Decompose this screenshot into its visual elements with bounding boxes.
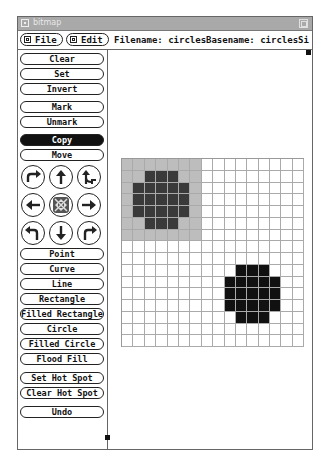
bitmap-pixel[interactable] bbox=[247, 218, 258, 230]
bitmap-pixel[interactable] bbox=[133, 335, 144, 347]
bitmap-pixel[interactable] bbox=[225, 300, 236, 312]
bitmap-pixel[interactable] bbox=[179, 312, 190, 324]
invert-button[interactable]: Invert bbox=[20, 83, 104, 95]
bitmap-pixel[interactable] bbox=[122, 312, 133, 324]
bitmap-pixel[interactable] bbox=[168, 183, 179, 195]
bitmap-pixel[interactable] bbox=[122, 265, 133, 277]
bitmap-pixel[interactable] bbox=[247, 300, 258, 312]
bitmap-pixel[interactable] bbox=[145, 312, 156, 324]
bitmap-pixel[interactable] bbox=[259, 159, 270, 171]
bitmap-pixel[interactable] bbox=[190, 288, 201, 300]
bitmap-pixel[interactable] bbox=[179, 206, 190, 218]
bitmap-pixel[interactable] bbox=[190, 277, 201, 289]
bitmap-pixel[interactable] bbox=[293, 206, 304, 218]
bitmap-pixel[interactable] bbox=[145, 288, 156, 300]
bitmap-pixel[interactable] bbox=[156, 265, 167, 277]
bitmap-pixel[interactable] bbox=[179, 265, 190, 277]
bitmap-pixel[interactable] bbox=[225, 253, 236, 265]
bitmap-pixel[interactable] bbox=[145, 335, 156, 347]
line-button[interactable]: Line bbox=[20, 278, 104, 290]
title-bar[interactable]: bitmap bbox=[18, 17, 312, 31]
left-arrow-button[interactable] bbox=[21, 193, 45, 217]
bitmap-pixel[interactable] bbox=[225, 218, 236, 230]
bitmap-pixel[interactable] bbox=[168, 159, 179, 171]
bitmap-pixel[interactable] bbox=[293, 265, 304, 277]
bitmap-pixel[interactable] bbox=[293, 253, 304, 265]
bitmap-pixel[interactable] bbox=[236, 277, 247, 289]
bitmap-pixel[interactable] bbox=[259, 335, 270, 347]
bitmap-pixel[interactable] bbox=[259, 171, 270, 183]
point-button[interactable]: Point bbox=[20, 248, 104, 260]
bitmap-pixel[interactable] bbox=[156, 171, 167, 183]
clear-hot-spot-button[interactable]: Clear Hot Spot bbox=[20, 387, 104, 399]
bitmap-pixel[interactable] bbox=[281, 171, 292, 183]
bitmap-pixel[interactable] bbox=[259, 312, 270, 324]
bitmap-pixel[interactable] bbox=[145, 241, 156, 253]
bitmap-pixel[interactable] bbox=[145, 253, 156, 265]
bitmap-pixel[interactable] bbox=[190, 230, 201, 242]
fold-button[interactable] bbox=[49, 193, 73, 217]
bitmap-pixel[interactable] bbox=[202, 218, 213, 230]
circle-button[interactable]: Circle bbox=[20, 323, 104, 335]
move-button[interactable]: Move bbox=[20, 149, 104, 161]
bitmap-pixel[interactable] bbox=[145, 300, 156, 312]
bitmap-pixel[interactable] bbox=[236, 300, 247, 312]
bitmap-pixel[interactable] bbox=[293, 300, 304, 312]
bitmap-pixel[interactable] bbox=[270, 206, 281, 218]
bitmap-pixel[interactable] bbox=[190, 253, 201, 265]
bitmap-pixel[interactable] bbox=[236, 218, 247, 230]
bitmap-pixel[interactable] bbox=[145, 194, 156, 206]
bitmap-pixel[interactable] bbox=[281, 312, 292, 324]
bitmap-pixel[interactable] bbox=[202, 335, 213, 347]
bitmap-pixel[interactable] bbox=[293, 230, 304, 242]
bitmap-pixel[interactable] bbox=[213, 218, 224, 230]
bitmap-pixel[interactable] bbox=[133, 288, 144, 300]
bitmap-pixel[interactable] bbox=[156, 206, 167, 218]
bitmap-pixel[interactable] bbox=[259, 218, 270, 230]
bitmap-pixel[interactable] bbox=[270, 300, 281, 312]
bitmap-pixel[interactable] bbox=[202, 253, 213, 265]
bitmap-pixel[interactable] bbox=[236, 194, 247, 206]
bitmap-pixel[interactable] bbox=[225, 277, 236, 289]
bitmap-pixel[interactable] bbox=[259, 241, 270, 253]
bitmap-pixel[interactable] bbox=[190, 194, 201, 206]
bitmap-pixel[interactable] bbox=[293, 171, 304, 183]
bitmap-pixel[interactable] bbox=[122, 288, 133, 300]
bitmap-pixel[interactable] bbox=[179, 194, 190, 206]
filled-circle-button[interactable]: Filled Circle bbox=[20, 338, 104, 350]
bitmap-pixel[interactable] bbox=[122, 230, 133, 242]
bitmap-pixel[interactable] bbox=[190, 206, 201, 218]
bitmap-pixel[interactable] bbox=[293, 183, 304, 195]
bitmap-pixel[interactable] bbox=[293, 335, 304, 347]
bitmap-pixel[interactable] bbox=[225, 206, 236, 218]
bitmap-pixel[interactable] bbox=[259, 194, 270, 206]
bitmap-pixel[interactable] bbox=[202, 241, 213, 253]
bitmap-pixel[interactable] bbox=[133, 194, 144, 206]
bitmap-pixel[interactable] bbox=[213, 277, 224, 289]
bitmap-pixel[interactable] bbox=[190, 171, 201, 183]
bitmap-pixel[interactable] bbox=[122, 277, 133, 289]
bitmap-pixel[interactable] bbox=[190, 335, 201, 347]
bitmap-pixel[interactable] bbox=[156, 288, 167, 300]
bitmap-pixel[interactable] bbox=[202, 159, 213, 171]
bitmap-pixel[interactable] bbox=[281, 288, 292, 300]
set-button[interactable]: Set bbox=[20, 68, 104, 80]
bitmap-pixel[interactable] bbox=[179, 335, 190, 347]
bitmap-pixel[interactable] bbox=[247, 265, 258, 277]
bitmap-pixel[interactable] bbox=[213, 171, 224, 183]
rotate-right-button[interactable] bbox=[77, 221, 101, 245]
bitmap-pixel[interactable] bbox=[133, 218, 144, 230]
bitmap-pixel[interactable] bbox=[281, 194, 292, 206]
bitmap-pixel[interactable] bbox=[247, 183, 258, 195]
down-arrow-button[interactable] bbox=[49, 221, 73, 245]
bitmap-pixel[interactable] bbox=[213, 230, 224, 242]
bitmap-pixel[interactable] bbox=[179, 324, 190, 336]
bitmap-pixel[interactable] bbox=[168, 171, 179, 183]
bitmap-pixel[interactable] bbox=[179, 230, 190, 242]
bitmap-pixel[interactable] bbox=[122, 183, 133, 195]
set-hot-spot-button[interactable]: Set Hot Spot bbox=[20, 372, 104, 384]
bitmap-pixel[interactable] bbox=[168, 300, 179, 312]
bitmap-pixel[interactable] bbox=[145, 206, 156, 218]
bitmap-pixel[interactable] bbox=[281, 277, 292, 289]
bitmap-pixel[interactable] bbox=[293, 324, 304, 336]
